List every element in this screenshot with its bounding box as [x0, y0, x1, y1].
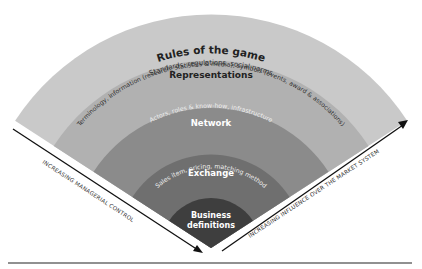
business-title-line1: Business	[191, 211, 231, 220]
business-title-line2: definitions	[187, 221, 235, 230]
representations-title: Representations	[169, 70, 253, 80]
arrowhead-icon	[193, 245, 203, 253]
network-title: Network	[191, 118, 232, 128]
market-system-fan-diagram: Rules of the game Standards, regulations…	[0, 0, 422, 269]
